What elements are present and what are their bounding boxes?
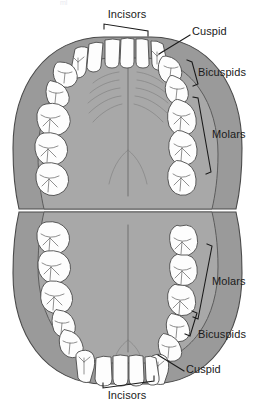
cropped-top-text: ml <box>60 0 68 6</box>
upper-incisors-bracket <box>104 24 148 36</box>
dental-arch-figure: ml <box>0 0 255 401</box>
lower-cuspid-label: Cuspid <box>186 363 221 375</box>
lower-bicuspids-label: Bicuspids <box>198 328 246 340</box>
upper-bicuspids-label: Bicuspids <box>198 66 246 78</box>
upper-incisors-label: Incisors <box>108 8 147 20</box>
lower-molars-label: Molars <box>212 275 246 287</box>
mandibular-arch <box>13 212 242 386</box>
maxillary-arch <box>13 37 242 209</box>
upper-cuspid-label: Cuspid <box>192 25 227 37</box>
upper-molars-label: Molars <box>212 128 246 140</box>
lower-incisors-label: Incisors <box>108 389 147 401</box>
dental-diagram-canvas: ml <box>0 0 255 401</box>
